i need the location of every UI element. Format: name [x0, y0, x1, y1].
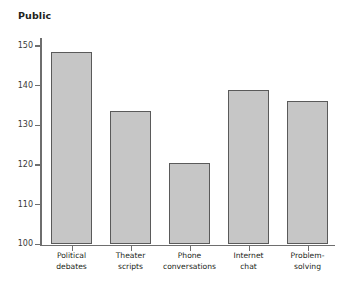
bar-chart: Public 100110120130140150 Political deba…	[0, 0, 351, 289]
y-axis-tick-label: 120	[18, 161, 33, 169]
bar	[51, 52, 93, 245]
bar	[228, 90, 270, 245]
x-axis-category-label: Problem- solving	[272, 251, 343, 272]
y-axis-line	[40, 38, 42, 246]
y-axis-tick-label: 150	[18, 42, 33, 50]
y-axis-tick: 110	[35, 204, 40, 205]
x-axis-line	[40, 245, 335, 247]
bar	[287, 101, 329, 244]
y-axis-tick-label: 110	[18, 201, 33, 209]
y-axis-tick-label: 100	[18, 240, 33, 248]
y-axis-tick-label: 130	[18, 121, 33, 129]
plot-area: 100110120130140150	[40, 38, 335, 246]
bar	[169, 163, 211, 244]
y-axis-tick: 100	[35, 244, 40, 245]
y-axis-tick: 140	[35, 85, 40, 86]
y-axis-tick: 130	[35, 125, 40, 126]
chart-title: Public	[18, 10, 51, 21]
y-axis-tick: 150	[35, 45, 40, 46]
y-axis-tick-label: 140	[18, 82, 33, 90]
y-axis-tick: 120	[35, 164, 40, 165]
bar	[110, 111, 152, 244]
